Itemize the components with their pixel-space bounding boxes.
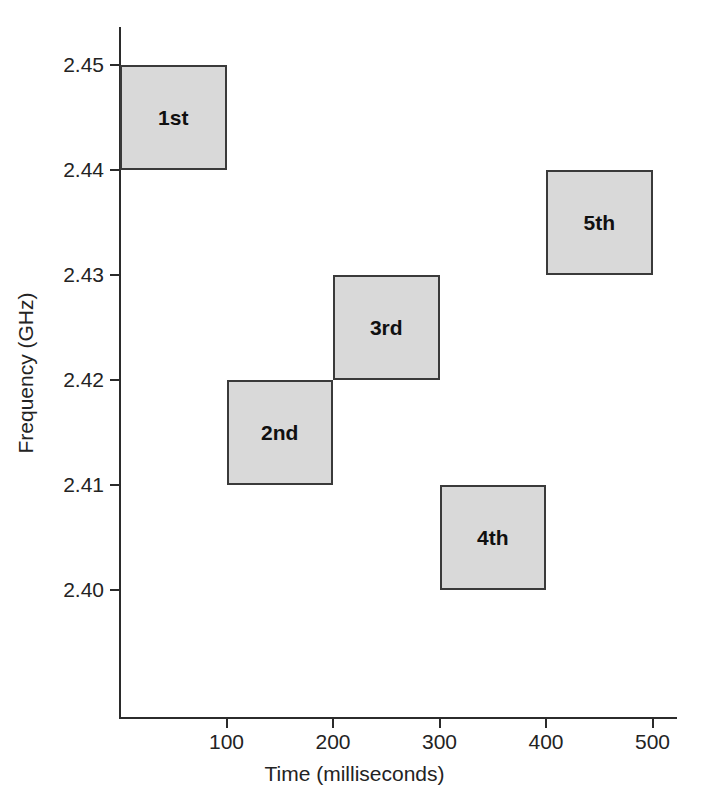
y-tick-label: 2.40 [40,579,104,600]
hop-block: 2nd [227,380,334,485]
y-axis-title: Frequency (GHz) [15,253,37,493]
hop-block-label: 2nd [261,421,298,445]
y-tick-label: 2.41 [40,474,104,495]
x-tick-label: 300 [395,731,485,753]
y-tick-label: 2.43 [40,264,104,285]
frequency-hopping-chart: 2.402.412.422.432.442.45 100200300400500… [0,0,709,803]
y-tick-label: 2.42 [40,369,104,390]
y-tick-mark [110,169,119,171]
y-tick-mark [110,64,119,66]
y-tick-mark [110,274,119,276]
hop-block: 5th [546,170,653,275]
x-tick-mark [226,719,228,728]
hop-block: 4th [440,485,547,590]
y-tick-mark [110,589,119,591]
y-tick-label: 2.45 [40,54,104,75]
y-tick-label-wrap: 2.42 [28,369,104,390]
x-axis-line [119,717,677,719]
y-tick-label-wrap: 2.44 [28,159,104,180]
y-tick-mark [110,484,119,486]
x-tick-mark [332,719,334,728]
hop-block-label: 5th [584,211,616,235]
y-tick-label: 2.44 [40,159,104,180]
hop-block-label: 3rd [370,316,403,340]
x-tick-label: 400 [501,731,591,753]
x-tick-mark [545,719,547,728]
x-axis-title: Time (milliseconds) [0,763,709,785]
x-tick-mark [652,719,654,728]
y-tick-label-wrap: 2.45 [28,54,104,75]
x-tick-mark [439,719,441,728]
hop-block-label: 4th [477,526,509,550]
y-tick-mark [110,379,119,381]
hop-block: 1st [120,65,227,170]
y-tick-label-wrap: 2.40 [28,579,104,600]
hop-block: 3rd [333,275,440,380]
y-tick-label-wrap: 2.41 [28,474,104,495]
x-tick-label: 100 [182,731,272,753]
y-tick-label-wrap: 2.43 [28,264,104,285]
hop-block-label: 1st [158,106,188,130]
x-tick-label: 200 [288,731,378,753]
x-tick-label: 500 [608,731,698,753]
